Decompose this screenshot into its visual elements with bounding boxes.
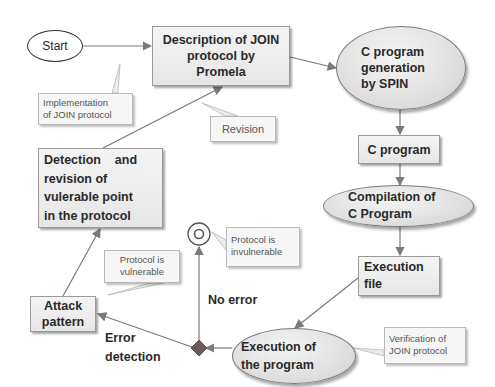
callout-text: Protocol is xyxy=(231,234,295,246)
callout-text: Protocol is xyxy=(109,254,175,266)
callout-text: JOIN protocol xyxy=(389,345,461,357)
execution-file-node[interactable]: Execution file xyxy=(358,256,440,296)
node-text: generation xyxy=(361,60,465,76)
node-text: Detection and xyxy=(44,151,162,170)
node-text: in the protocol xyxy=(44,207,162,226)
detection-revision-node[interactable]: Detection and revision of vulerable poin… xyxy=(38,148,163,228)
no-error-label: No error xyxy=(208,292,257,309)
node-text: Attack xyxy=(44,298,82,314)
node-text: Compilation of xyxy=(348,189,473,206)
node-text: C program xyxy=(367,143,430,157)
callout-text: Revision xyxy=(222,123,264,135)
callout-verification: Verification of JOIN protocol xyxy=(384,327,466,364)
error-detection-label: Error detection xyxy=(105,329,161,367)
edge-label-text: detection xyxy=(105,348,161,367)
node-text: Execution of xyxy=(241,338,355,356)
callout-invulnerable: Protocol is invulnerable xyxy=(226,227,300,267)
c-program-node[interactable]: C program xyxy=(358,135,440,164)
edge-label-text: Error xyxy=(105,329,161,348)
decision-diamond-icon xyxy=(191,340,207,356)
node-text: Promela xyxy=(196,64,245,80)
description-node[interactable]: Description of JOIN protocol by Promela xyxy=(152,26,290,86)
callout-text: Verification of xyxy=(389,333,461,345)
callout-text: of JOIN protocol xyxy=(43,109,128,121)
edge-label-text: No error xyxy=(208,293,257,307)
node-text: revision of xyxy=(44,170,162,189)
attack-pattern-node[interactable]: Attack pattern xyxy=(30,296,96,332)
c-program-generation-node[interactable]: C program generation by SPIN xyxy=(336,26,466,110)
end-target-icon xyxy=(188,223,210,245)
node-text: the program xyxy=(241,356,355,374)
execution-program-node[interactable]: Execution of the program xyxy=(232,328,356,384)
node-text: protocol by xyxy=(187,48,255,64)
compilation-node[interactable]: Compilation of C Program xyxy=(323,185,474,227)
node-text: vulerable point xyxy=(44,188,162,207)
callout-vulnerable: Protocol is vulnerable xyxy=(104,250,180,283)
node-text: Execution xyxy=(364,259,439,276)
start-node[interactable]: Start xyxy=(27,30,83,62)
callout-text: vulnerable xyxy=(109,266,175,278)
start-label: Start xyxy=(42,39,67,53)
callout-revision: Revision xyxy=(210,116,276,142)
node-text: C Program xyxy=(348,206,473,223)
node-text: C program xyxy=(361,44,465,60)
node-text: Description of JOIN xyxy=(163,32,280,48)
node-text: by SPIN xyxy=(361,76,465,92)
callout-text: Implementation xyxy=(43,97,128,109)
callout-implementation: Implementation of JOIN protocol xyxy=(38,93,133,125)
node-text: file xyxy=(364,276,439,293)
node-text: pattern xyxy=(42,314,84,330)
callout-text: invulnerable xyxy=(231,246,295,258)
